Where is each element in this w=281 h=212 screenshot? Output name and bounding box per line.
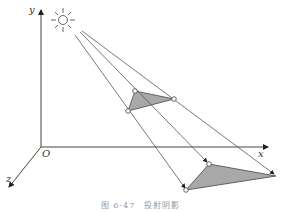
x-axis-label: x bbox=[258, 148, 264, 159]
sun-icon bbox=[51, 8, 75, 32]
light-ray bbox=[80, 32, 207, 162]
light-ray bbox=[82, 31, 274, 174]
y-axis-label: y bbox=[29, 4, 35, 15]
figure-caption: 图 6-47 投射阴影 bbox=[0, 199, 281, 210]
shadow-triangle bbox=[186, 164, 276, 190]
origin-label: O bbox=[42, 148, 50, 159]
z-axis bbox=[9, 147, 41, 187]
z-axis-label: z bbox=[6, 173, 11, 184]
shadow-projection-diagram bbox=[0, 0, 281, 212]
